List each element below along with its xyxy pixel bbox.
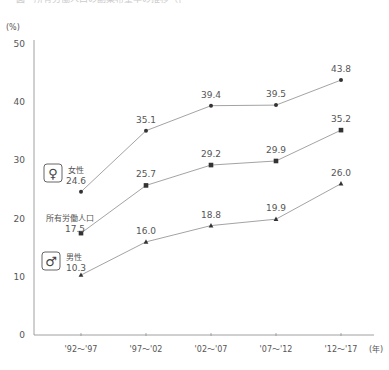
x-tick-label: '92～'97 [65,345,98,354]
data-point-triangle [339,181,344,185]
first-value-male: 10.3 [66,263,86,273]
data-label: 35.1 [136,115,156,125]
data-point-square [209,163,214,168]
data-label: 39.4 [201,90,221,100]
female-icon: ♀ [48,166,58,181]
data-point-circle [79,190,83,194]
data-label: 26.0 [331,168,351,178]
x-axis-unit-label: (年) [369,344,383,354]
first-value-all-workers: 17.5 [65,224,85,234]
data-point-square [274,159,279,164]
data-point-square [144,183,149,188]
y-tick-label: 30 [14,155,26,165]
data-point-circle [209,104,213,108]
data-label: 29.2 [201,149,221,159]
y-tick-label: 10 [14,272,26,282]
data-point-square [339,128,344,133]
x-tick-label: '97～'02 [130,345,163,354]
data-point-circle [274,103,278,107]
data-label: 29.9 [266,145,286,155]
male-icon: ♂ [45,254,57,269]
x-tick-label: '02～'07 [195,345,228,354]
legend-label-male: 男性 [66,252,82,262]
y-tick-label: 0 [19,330,25,340]
data-point-circle [339,78,343,82]
legend-label-female: 女性 [68,165,84,175]
legend-label-all-workers: 所有労働人口 [46,213,94,223]
line-chart: (%)01020304050'92～'97'97～'02'02～'07'07～'… [0,0,389,370]
x-tick-label: '07～'12 [260,345,293,354]
data-label: 19.9 [266,203,286,213]
data-point-triangle [274,217,279,221]
data-label: 16.0 [136,226,156,236]
series-line [81,184,341,275]
y-tick-label: 20 [14,214,26,224]
data-label: 39.5 [266,89,286,99]
x-tick-label: '12～'17 [325,345,358,354]
y-tick-label: 50 [14,39,26,49]
data-label: 35.2 [331,114,351,124]
data-label: 25.7 [136,169,156,179]
y-tick-label: 40 [14,97,26,107]
data-point-circle [144,129,148,133]
data-label: 18.8 [201,210,221,220]
first-value-female: 24.6 [66,176,86,186]
data-label: 43.8 [331,64,351,74]
y-axis-unit-label: (%) [6,23,20,32]
